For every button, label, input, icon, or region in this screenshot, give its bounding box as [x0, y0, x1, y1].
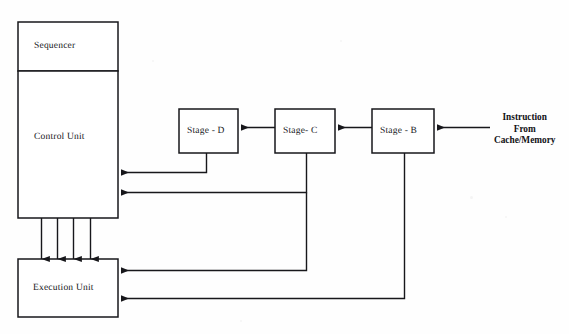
- connector-stage-d-to-control-unit: [121, 153, 207, 173]
- instruction-source-line-1: Instruction: [494, 112, 555, 124]
- control-bus-connectors: [42, 218, 91, 259]
- label-stage-b: Stage - B: [380, 126, 417, 136]
- box-group: [18, 22, 434, 317]
- control-unit-feedback-connectors: [121, 153, 307, 193]
- instruction-source-line-2: From: [494, 124, 555, 136]
- label-sequencer: Sequencer: [34, 41, 75, 51]
- label-instruction-source: Instruction From Cache/Memory: [494, 112, 555, 147]
- instruction-source-line-3: Cache/Memory: [494, 135, 555, 147]
- execution-unit-feedback-connectors: [121, 153, 405, 299]
- label-stage-c: Stage- C: [283, 126, 318, 136]
- connector-stage-c-to-execution-unit: [121, 193, 307, 271]
- label-execution-unit: Execution Unit: [33, 283, 94, 293]
- label-stage-d: Stage - D: [187, 126, 225, 136]
- diagram-canvas: Sequencer Control Unit Execution Unit St…: [0, 0, 569, 334]
- label-control-unit: Control Unit: [34, 132, 85, 142]
- box-control-unit[interactable]: [18, 71, 118, 218]
- connector-stage-b-to-execution-unit: [121, 153, 405, 299]
